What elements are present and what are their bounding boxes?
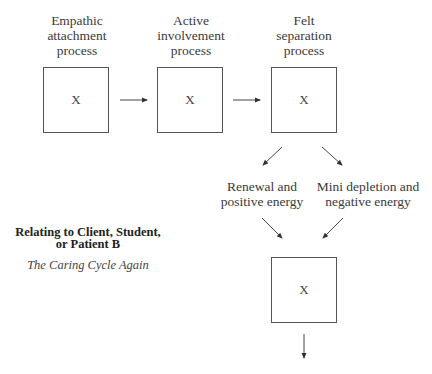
arrow-down-left-icon: [263, 147, 282, 165]
arrows-layer: [0, 0, 432, 374]
arrow-down-right-icon: [262, 218, 282, 238]
arrow-down-left-icon: [323, 218, 343, 238]
arrow-down-right-icon: [322, 147, 342, 165]
